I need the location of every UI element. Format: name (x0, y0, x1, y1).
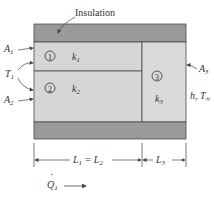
A2-label: A2 (3, 94, 14, 107)
insulation-label: Insulation (75, 7, 115, 18)
layer-2-number: 2 (48, 85, 52, 94)
T1-label: T1 (5, 68, 14, 81)
A2-leader-arrow (18, 99, 33, 101)
L12-label: L1 = L2 (72, 154, 103, 167)
bottom-insulation (34, 122, 186, 139)
layer-2 (34, 71, 142, 122)
layer-3-number: 3 (155, 73, 159, 82)
T1-leader-arrow-upper (18, 63, 33, 70)
A1-leader-arrow (18, 48, 33, 50)
T1-leader-arrow-lower (18, 78, 33, 90)
A1-label: A1 (3, 43, 14, 56)
convection-label: h, T∞ (190, 90, 211, 103)
A3-label: A3 (198, 63, 209, 76)
layer-3 (142, 42, 186, 122)
L3-label: L3 (155, 154, 166, 167)
A3-leader-arrow (187, 65, 197, 69)
top-insulation (34, 24, 186, 42)
layer-1-number: 1 (48, 53, 52, 62)
Q1-label: Q1 (47, 179, 58, 192)
composite-wall-diagram: Insulation A1 T1 A2 1 k1 2 k2 3 k3 A3 h,… (0, 0, 214, 199)
